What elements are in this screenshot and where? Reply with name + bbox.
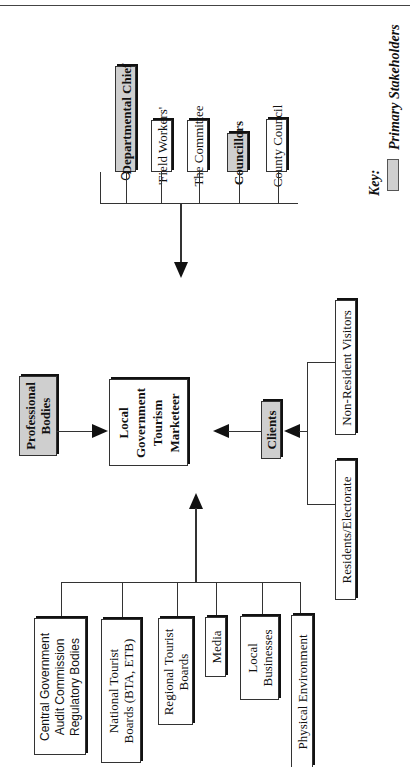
label-departmental-chief: Departmental Chief: [118, 64, 133, 175]
box-local-businesses: Local Businesses: [240, 616, 279, 700]
label-national-tourist-boards: National Tourist Boards (BTA, ETB): [106, 639, 136, 744]
center-line-2: Government: [133, 387, 148, 457]
page-top-rule: [0, 5, 410, 6]
connector-professional-bodies: [57, 431, 95, 432]
label-professional-bodies: Professional Bodies: [23, 382, 53, 450]
connector-client-groups-stem: [299, 431, 307, 432]
box-local-government-tourism-marketeer: Local Government Tourism Marketeer: [109, 379, 188, 466]
box-county-council: County Council: [266, 119, 287, 172]
connector-physical-environment: [300, 582, 301, 618]
connector-top-bus: [100, 203, 298, 204]
connector-bottom-bus: [61, 582, 301, 583]
connector-residents: [307, 504, 335, 505]
box-departmental-chief: Departmental Chief: [115, 66, 136, 172]
regional-tourist-line-1: Regional Tourist: [161, 628, 176, 715]
connector-client-groups-bus: [307, 362, 308, 504]
label-councillors: Councillors: [230, 120, 245, 184]
arrow-left-icon: [284, 424, 300, 438]
label-county-council: County Council: [269, 104, 284, 187]
label-the-committee: The Committee: [190, 105, 205, 186]
national-tourist-line-2: Boards (BTA, ETB): [121, 639, 136, 744]
label-local-businesses: Local Businesses: [245, 629, 275, 686]
box-central-government: Central Government Audit Commission Regu…: [34, 618, 86, 755]
arrow-left-icon: [213, 424, 229, 438]
key-swatch-label: Primary Stakeholders: [387, 24, 403, 150]
box-regional-tourist-boards: Regional Tourist Boards: [158, 618, 193, 725]
professional-bodies-line-1: Professional: [23, 382, 38, 450]
connector-national-tourist: [122, 582, 123, 618]
label-clients: Clients: [264, 411, 279, 450]
local-businesses-line-2: Businesses: [260, 629, 275, 686]
regional-tourist-line-2: Boards: [176, 653, 191, 690]
connector-bottom-trunk: [195, 508, 197, 583]
box-residents-electorate: Residents/Electorate: [335, 460, 356, 600]
central-government-line-2: Audit Commission: [53, 638, 67, 735]
central-government-line-3: Regulatory Bodies: [68, 637, 82, 735]
box-non-resident-visitors: Non-Resident Visitors: [335, 300, 356, 435]
center-line-1: Local: [116, 407, 131, 438]
arrow-right-icon: [92, 424, 108, 438]
connector-central-government: [61, 582, 62, 618]
box-councillors: Councillors: [227, 133, 248, 172]
box-clients: Clients: [261, 401, 281, 459]
key-title: Key:: [367, 170, 383, 196]
arrow-up-icon: [189, 493, 203, 509]
label-central-government: Central Government Audit Commission Regu…: [38, 632, 83, 740]
arrow-down-icon: [174, 262, 188, 278]
connector-media: [216, 582, 217, 618]
connector-the-committee: [199, 172, 200, 203]
label-media: Media: [208, 630, 223, 663]
connector-councillors: [239, 172, 240, 203]
connector-regional-tourist: [177, 582, 178, 618]
key-swatch-primary: [387, 159, 399, 191]
professional-bodies-line-2: Bodies: [38, 398, 53, 435]
connector-county-council: [278, 172, 279, 203]
connector-non-resident: [307, 362, 335, 363]
connector-local-businesses: [262, 582, 263, 618]
box-the-committee: The Committee: [187, 120, 208, 172]
label-physical-environment: Physical Environment: [295, 634, 310, 749]
central-government-line-1: Central Government: [38, 632, 52, 740]
label-residents-electorate: Residents/Electorate: [338, 477, 353, 584]
box-professional-bodies: Professional Bodies: [19, 376, 57, 456]
connector-chief-executive: [100, 172, 101, 203]
box-field-workers: 'Field Workers': [151, 120, 172, 172]
local-businesses-line-1: Local: [245, 643, 260, 673]
box-media: Media: [205, 617, 226, 677]
connector-top-trunk: [180, 203, 182, 265]
center-line-3: Tourism: [150, 399, 165, 445]
center-line-4: Marketeer: [167, 393, 182, 452]
label-regional-tourist-boards: Regional Tourist Boards: [161, 628, 191, 715]
connector-clients-to-center: [228, 431, 261, 432]
connector-departmental-chief: [126, 172, 127, 203]
label-center: Local Government Tourism Marketeer: [115, 387, 183, 457]
box-physical-environment: Physical Environment: [291, 615, 313, 767]
label-non-resident-visitors: Non-Resident Visitors: [338, 310, 353, 426]
connector-field-workers: [161, 172, 162, 203]
national-tourist-line-1: National Tourist: [106, 649, 121, 733]
box-national-tourist-boards: National Tourist Boards (BTA, ETB): [101, 619, 141, 763]
